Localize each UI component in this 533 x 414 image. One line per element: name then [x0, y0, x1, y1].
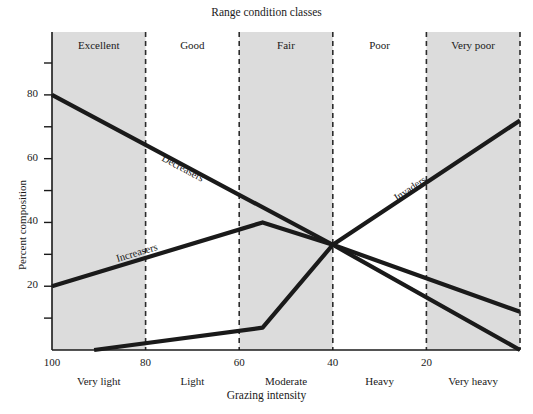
class-label-very-poor: Very poor — [426, 39, 520, 51]
class-label-poor: Poor — [333, 39, 427, 51]
range-condition-chart: Range condition classes Percent composit… — [0, 0, 533, 414]
class-label-excellent: Excellent — [52, 39, 146, 51]
band-very-poor — [426, 32, 520, 350]
band-excellent — [52, 32, 146, 350]
class-label-fair: Fair — [239, 39, 333, 51]
intensity-label-moderate: Moderate — [241, 375, 331, 387]
y-tick-label-80: 80 — [16, 87, 38, 99]
intensity-label-light: Light — [147, 375, 237, 387]
x-tick-label-100: 100 — [27, 356, 77, 368]
x-axis-title: Grazing intensity — [0, 389, 533, 401]
intensity-label-heavy: Heavy — [335, 375, 425, 387]
y-tick-label-20: 20 — [16, 278, 38, 290]
x-tick-label-40: 40 — [308, 356, 358, 368]
x-tick-label-20: 20 — [401, 356, 451, 368]
plot-canvas — [0, 0, 533, 414]
x-tick-label-60: 60 — [214, 356, 264, 368]
y-tick-label-60: 60 — [16, 151, 38, 163]
y-tick-label-40: 40 — [16, 214, 38, 226]
intensity-label-very-heavy: Very heavy — [428, 375, 518, 387]
x-tick-label-80: 80 — [121, 356, 171, 368]
intensity-label-very-light: Very light — [54, 375, 144, 387]
class-label-good: Good — [146, 39, 240, 51]
